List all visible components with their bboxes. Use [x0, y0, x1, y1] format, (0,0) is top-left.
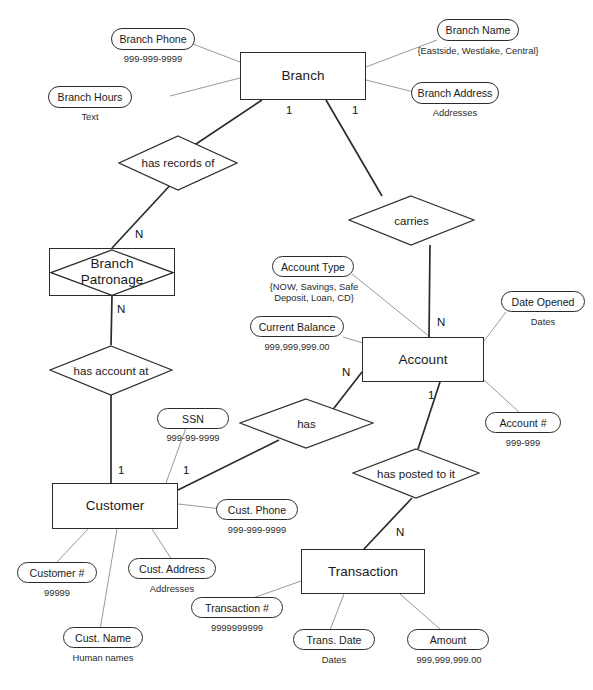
attribute-date-opened-label: Date Opened	[511, 296, 574, 308]
domain-trans-date: Dates	[293, 654, 375, 665]
attribute-branch-address-label: Branch Address	[418, 87, 493, 99]
entity-account[interactable]: Account	[362, 337, 484, 382]
attribute-account-type-label: Account Type	[281, 261, 345, 273]
cardinality-branch-has-records: 1	[286, 104, 292, 116]
attribute-account-number-label: Account #	[499, 417, 546, 429]
entity-transaction[interactable]: Transaction	[301, 549, 425, 594]
domain-branch-address: Addresses	[408, 107, 502, 118]
entity-branch[interactable]: Branch	[240, 52, 366, 100]
entity-customer-label: Customer	[86, 498, 145, 514]
domain-cust-address: Addresses	[128, 583, 216, 594]
relationship-has-posted-to-it-label: has posted to it	[352, 467, 480, 480]
attribute-date-opened[interactable]: Date Opened	[501, 291, 585, 312]
entity-branch-patronage-label: Branch Patronage	[50, 256, 174, 287]
relationship-carries[interactable]: carries	[348, 195, 475, 246]
wire-amount	[400, 594, 441, 630]
attribute-branch-address[interactable]: Branch Address	[411, 82, 499, 104]
wire-customer-number	[57, 529, 88, 562]
attribute-transaction-number[interactable]: Transaction #	[191, 597, 283, 618]
entity-account-label: Account	[399, 352, 448, 368]
cardinality-has-account-at-customer: 1	[118, 464, 124, 476]
domain-cust-phone: 999-999-9999	[212, 524, 302, 535]
wire-has-posted-transaction	[364, 498, 412, 549]
cardinality-branch-carries: 1	[352, 104, 358, 116]
attribute-transaction-number-label: Transaction #	[205, 602, 269, 614]
wire-trans-date	[330, 594, 344, 630]
domain-ssn: 999-99-9999	[153, 432, 233, 443]
relationship-has-records-of[interactable]: has records of	[118, 135, 238, 191]
cardinality-has-customer: 1	[183, 464, 189, 476]
attribute-customer-number[interactable]: Customer #	[17, 562, 97, 583]
relationship-has-posted-to-it[interactable]: has posted to it	[352, 448, 480, 499]
wire-carries-account	[429, 245, 430, 337]
domain-account-type: {NOW, Savings, Safe Deposit, Loan, CD}	[258, 281, 370, 303]
cardinality-account-has-posted: 1	[428, 389, 434, 401]
relationship-has-label: has	[239, 417, 374, 430]
attribute-cust-phone-label: Cust. Phone	[228, 504, 286, 516]
cardinality-account-has: N	[342, 366, 350, 378]
attribute-branch-phone-label: Branch Phone	[119, 33, 186, 45]
attribute-cust-phone[interactable]: Cust. Phone	[216, 499, 298, 520]
entity-customer[interactable]: Customer	[52, 483, 178, 529]
relationship-has-records-of-label: has records of	[118, 157, 238, 170]
domain-branch-name: {Eastside, Westlake, Central}	[403, 45, 553, 56]
attribute-cust-name-label: Cust. Name	[75, 632, 131, 644]
cardinality-carries-account: N	[437, 316, 445, 328]
attribute-branch-hours[interactable]: Branch Hours	[48, 86, 132, 108]
wire-transaction-number	[253, 581, 301, 598]
wire-patronage-has-account-at	[111, 296, 112, 345]
attribute-cust-address-label: Cust. Address	[139, 563, 205, 575]
attribute-ssn-label: SSN	[182, 413, 204, 425]
attribute-branch-name[interactable]: Branch Name	[437, 19, 519, 41]
attribute-amount[interactable]: Amount	[407, 629, 489, 650]
attribute-current-balance[interactable]: Current Balance	[250, 316, 344, 337]
wire-cust-name	[100, 529, 117, 630]
attribute-branch-name-label: Branch Name	[446, 24, 511, 36]
attribute-account-number[interactable]: Account #	[485, 412, 561, 433]
entity-branch-patronage[interactable]: Branch Patronage	[49, 248, 175, 296]
relationship-has[interactable]: has	[239, 398, 374, 449]
attribute-trans-date-label: Trans. Date	[307, 634, 362, 646]
er-diagram-canvas: Branch Branch Patronage Account Customer…	[0, 0, 593, 690]
domain-current-balance: 999,999,999.00	[248, 341, 346, 352]
domain-account-number: 999-999	[483, 437, 563, 448]
domain-transaction-number: 9999999999	[191, 622, 283, 633]
attribute-cust-name[interactable]: Cust. Name	[63, 627, 143, 648]
domain-branch-phone: 999-999-9999	[103, 53, 203, 64]
wire-account-number	[484, 380, 520, 413]
domain-date-opened: Dates	[500, 316, 586, 327]
attribute-current-balance-label: Current Balance	[259, 321, 336, 333]
domain-branch-hours: Text	[50, 111, 130, 122]
wire-cust-address	[152, 529, 172, 560]
relationship-carries-label: carries	[348, 214, 475, 227]
attribute-branch-hours-label: Branch Hours	[58, 91, 123, 103]
relationship-has-account-at[interactable]: has account at	[49, 345, 173, 396]
attribute-account-type[interactable]: Account Type	[272, 256, 354, 277]
attribute-ssn[interactable]: SSN	[157, 408, 229, 429]
attribute-amount-label: Amount	[430, 634, 467, 646]
attribute-customer-number-label: Customer #	[30, 567, 85, 579]
entity-branch-label: Branch	[282, 68, 325, 84]
attribute-cust-address[interactable]: Cust. Address	[128, 558, 216, 579]
entity-transaction-label: Transaction	[328, 564, 398, 580]
wire-branch-hours	[170, 78, 240, 96]
attribute-trans-date[interactable]: Trans. Date	[293, 629, 375, 650]
relationship-has-account-at-label: has account at	[49, 364, 173, 377]
attribute-branch-phone[interactable]: Branch Phone	[111, 28, 195, 50]
cardinality-has-posted-transaction: N	[396, 526, 404, 538]
cardinality-has-records-patronage: N	[135, 228, 143, 240]
domain-customer-number: 99999	[17, 587, 97, 598]
cardinality-patronage-has-account-at: N	[117, 303, 125, 315]
domain-cust-name: Human names	[58, 652, 148, 663]
domain-amount: 999,999,999.00	[403, 654, 495, 665]
